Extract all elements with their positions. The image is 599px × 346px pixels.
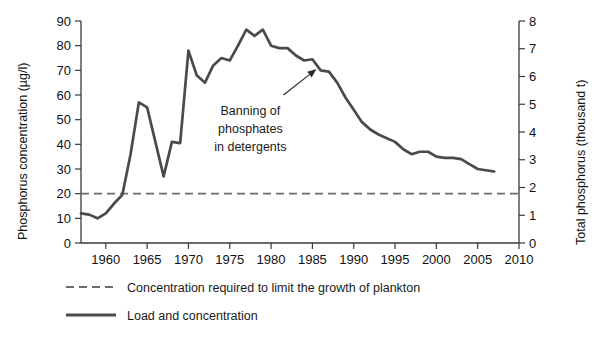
right-tick-label: 5 (529, 97, 536, 112)
right-tick-label: 1 (529, 208, 536, 223)
right-axis-title: Total phosphorus (thousand t) (574, 80, 588, 245)
x-tick-label: 2000 (422, 252, 451, 267)
x-tick-label: 1965 (133, 252, 162, 267)
x-tick-label: 1995 (381, 252, 410, 267)
phosphorus-concentration-chart: Phosphorus concentration (µg/l) Total ph… (0, 0, 599, 346)
x-tick-label: 2005 (463, 252, 492, 267)
x-tick-label: 1980 (257, 252, 286, 267)
right-tick-label: 7 (529, 41, 536, 56)
legend-label-threshold: Concentration required to limit the grow… (127, 281, 420, 295)
right-tick-label: 0 (529, 236, 536, 251)
left-tick-label: 90 (57, 14, 71, 29)
left-tick-label: 60 (57, 88, 71, 103)
x-tick-label: 1970 (174, 252, 203, 267)
svg-text:phosphates: phosphates (218, 122, 283, 136)
left-tick-label: 20 (57, 186, 71, 201)
right-tick-label: 2 (529, 180, 536, 195)
left-tick-label: 50 (57, 112, 71, 127)
x-tick-label: 1960 (91, 252, 120, 267)
left-tick-label: 80 (57, 38, 71, 53)
svg-text:in detergents: in detergents (214, 140, 286, 154)
left-tick-label: 30 (57, 162, 71, 177)
legend-label-series: Load and concentration (127, 309, 258, 323)
svg-text:Banning of: Banning of (221, 104, 281, 118)
right-tick-label: 6 (529, 69, 536, 84)
left-tick-label: 40 (57, 137, 71, 152)
x-tick-label: 1975 (215, 252, 244, 267)
x-tick-label: 2010 (505, 252, 534, 267)
left-tick-label: 70 (57, 63, 71, 78)
left-tick-label: 0 (64, 236, 71, 251)
right-tick-label: 3 (529, 152, 536, 167)
right-tick-label: 4 (529, 125, 536, 140)
left-axis-title: Phosphorus concentration (µg/l) (16, 63, 30, 240)
right-tick-label: 8 (529, 14, 536, 29)
x-tick-label: 1990 (339, 252, 368, 267)
x-tick-label: 1985 (298, 252, 327, 267)
left-tick-label: 10 (57, 211, 71, 226)
